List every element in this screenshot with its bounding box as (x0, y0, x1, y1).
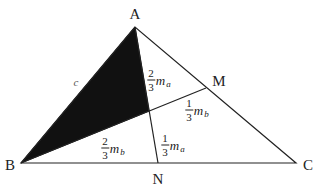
variable: m (156, 72, 165, 88)
denominator: 3 (148, 81, 154, 93)
segment-label-AG: 2 3 ma (147, 68, 170, 93)
subscript: b (120, 146, 125, 156)
denominator: 3 (102, 149, 108, 161)
fraction: 2 3 (101, 136, 109, 161)
vertex-label-B: B (5, 158, 15, 173)
triangle-figure (0, 0, 319, 187)
fraction: 2 3 (147, 68, 155, 93)
variable: m (170, 137, 179, 153)
shaded-triangle-ABG (21, 27, 149, 163)
subscript: a (166, 78, 171, 88)
subscript: a (180, 143, 185, 153)
side-label-c: c (74, 76, 79, 88)
numerator: 2 (101, 136, 109, 149)
denominator: 3 (162, 146, 168, 158)
numerator: 1 (185, 98, 193, 111)
fraction: 1 3 (185, 98, 193, 123)
fraction: 1 3 (161, 133, 169, 158)
subscript: b (204, 108, 209, 118)
segment-label-GM: 1 3 mb (185, 98, 208, 123)
variable: m (110, 140, 119, 156)
vertex-label-N: N (153, 172, 164, 187)
vertex-label-A: A (130, 7, 141, 22)
segment-label-GN: 1 3 ma (161, 133, 184, 158)
vertex-label-C: C (303, 158, 313, 173)
numerator: 1 (161, 133, 169, 146)
triangle-diagram: A B C M N c 2 3 ma 1 3 mb 2 3 mb 1 3 ma (0, 0, 319, 187)
vertex-label-M: M (212, 74, 225, 89)
numerator: 2 (147, 68, 155, 81)
segment-label-BG: 2 3 mb (101, 136, 124, 161)
denominator: 3 (186, 111, 192, 123)
variable: m (194, 102, 203, 118)
